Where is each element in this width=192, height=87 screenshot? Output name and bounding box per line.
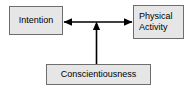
diagram-canvas: Intention Physical Activity Conscientiou… — [0, 0, 192, 87]
arrowhead-right-icon — [124, 18, 133, 25]
edge-conscientiousness-to-link — [93, 22, 100, 65]
node-physical-activity-label: Physical Activity — [139, 11, 173, 33]
node-intention: Intention — [9, 6, 63, 35]
node-conscientiousness-label: Conscientiousness — [61, 69, 137, 80]
node-conscientiousness: Conscientiousness — [46, 64, 151, 85]
arrowhead-left-icon — [64, 18, 73, 25]
node-intention-label: Intention — [19, 15, 54, 26]
node-physical-activity: Physical Activity — [133, 5, 184, 39]
edge-intention-physical-activity — [64, 18, 133, 25]
arrowhead-up-icon — [93, 22, 100, 31]
